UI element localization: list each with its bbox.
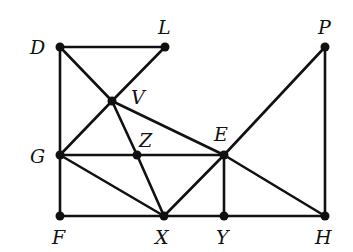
- point-label-V: V: [131, 86, 147, 108]
- point-label-E: E: [213, 123, 228, 145]
- segment-GX: [60, 155, 164, 216]
- point-V: [108, 97, 117, 106]
- point-label-D: D: [29, 36, 45, 58]
- point-H: [321, 212, 330, 221]
- point-label-L: L: [157, 16, 171, 38]
- point-E: [220, 151, 229, 160]
- point-label-Y: Y: [216, 226, 231, 248]
- segment-VG: [60, 101, 112, 155]
- point-D: [56, 43, 65, 52]
- point-G: [56, 151, 65, 160]
- geometry-diagram: DLPVGZEFXYH: [0, 0, 353, 252]
- point-label-H: H: [314, 226, 332, 248]
- point-label-Z: Z: [138, 129, 153, 151]
- point-F: [56, 212, 65, 221]
- point-L: [161, 43, 170, 52]
- point-label-P: P: [317, 16, 332, 38]
- segment-VZ: [112, 101, 137, 155]
- point-P: [321, 43, 330, 52]
- point-Y: [220, 212, 229, 221]
- point-X: [160, 212, 169, 221]
- point-label-G: G: [30, 145, 45, 167]
- edges-group: [60, 47, 325, 216]
- segment-XE: [164, 155, 224, 216]
- point-label-X: X: [153, 226, 170, 248]
- point-Z: [133, 151, 142, 160]
- segment-VE: [112, 101, 224, 155]
- segment-DV: [60, 47, 112, 101]
- segment-EH: [224, 155, 325, 216]
- point-label-F: F: [51, 226, 66, 248]
- labels-group: DLPVGZEFXYH: [29, 16, 332, 248]
- segment-EP: [224, 47, 325, 155]
